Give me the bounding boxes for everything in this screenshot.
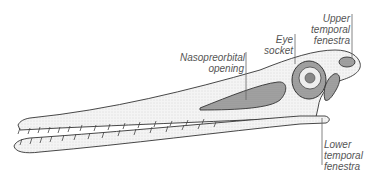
label-line: fenestra <box>324 161 380 172</box>
label-line: Eye <box>262 34 293 45</box>
label-line: Nasopreorbital <box>180 52 244 63</box>
label-lower-temporal-fenestra: Lower temporal fenestra <box>324 139 380 172</box>
label-line: opening <box>180 63 244 74</box>
label-line: temporal <box>324 150 380 161</box>
label-nasopreorbital-opening: Nasopreorbital opening <box>180 52 244 74</box>
upper-temporal-opening <box>339 57 355 67</box>
label-line: Upper <box>300 13 350 24</box>
label-line: temporal <box>300 24 350 35</box>
label-upper-temporal-fenestra: Upper temporal fenestra <box>300 13 350 46</box>
label-eye-socket: Eye socket <box>262 34 293 56</box>
label-line: fenestra <box>300 35 350 46</box>
label-line: Lower <box>324 139 380 150</box>
label-line: socket <box>262 45 293 56</box>
